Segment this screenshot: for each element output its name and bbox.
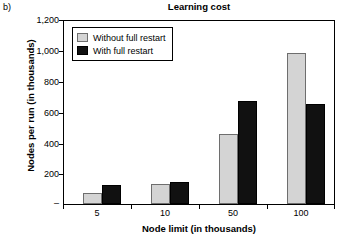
x-tick-label-50: 50 bbox=[199, 208, 267, 218]
panel-label: b) bbox=[3, 2, 11, 13]
legend: Without full restart With full restart bbox=[72, 27, 173, 61]
bar-without-restart-50[interactable] bbox=[219, 134, 238, 204]
legend-label-without-restart: Without full restart bbox=[93, 33, 166, 43]
y-tick-label-400: 400 bbox=[44, 140, 59, 149]
learning-cost-figure: b) Learning cost Nodes per run (in thous… bbox=[0, 0, 350, 241]
x-axis-title: Node limit (in thousands) bbox=[63, 223, 335, 235]
legend-label-with-restart: With full restart bbox=[93, 46, 153, 56]
chart-title: Learning cost bbox=[63, 1, 335, 13]
bar-with-restart-10[interactable] bbox=[170, 182, 189, 204]
legend-swatch-light-gray-square-icon bbox=[77, 33, 88, 42]
legend-swatch-black-square-icon bbox=[77, 46, 88, 55]
bar-with-restart-50[interactable] bbox=[238, 101, 257, 204]
bar-without-restart-5[interactable] bbox=[83, 193, 102, 204]
bar-without-restart-100[interactable] bbox=[287, 53, 306, 204]
y-tick-label-600: 600 bbox=[44, 109, 59, 118]
legend-entry-with-restart[interactable]: With full restart bbox=[77, 44, 166, 57]
y-tick-label-1200: 1,200 bbox=[36, 16, 59, 25]
bar-with-restart-5[interactable] bbox=[102, 185, 121, 204]
y-tick-label-800: 800 bbox=[44, 78, 59, 87]
y-tick-label-0: – bbox=[54, 199, 59, 208]
x-tick-label-100: 100 bbox=[267, 208, 335, 218]
y-tick-label-200: 200 bbox=[44, 170, 59, 179]
bar-with-restart-100[interactable] bbox=[306, 104, 325, 204]
x-tick-label-5: 5 bbox=[63, 208, 131, 218]
bar-without-restart-10[interactable] bbox=[151, 184, 170, 204]
legend-entry-without-restart[interactable]: Without full restart bbox=[77, 31, 166, 44]
y-axis-title: Nodes per run (in thousands) bbox=[25, 21, 36, 191]
plot-area: Without full restart With full restart bbox=[63, 20, 335, 205]
x-tick-label-10: 10 bbox=[131, 208, 199, 218]
y-tick-label-1000: 1,000 bbox=[36, 47, 59, 56]
